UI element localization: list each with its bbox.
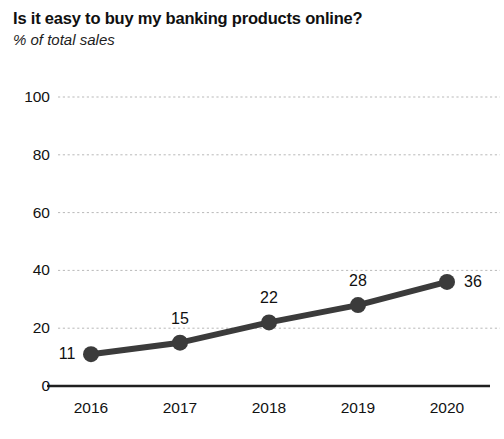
plot-area: 020406080100 20162017201820192020 111522… xyxy=(0,0,504,439)
data-point-label: 22 xyxy=(249,290,289,306)
chart-svg xyxy=(0,0,504,439)
data-point-label: 11 xyxy=(47,346,87,362)
y-tick-label: 0 xyxy=(6,378,50,394)
y-tick-label: 80 xyxy=(6,147,50,163)
data-point-marker xyxy=(261,314,277,330)
y-tick-label: 60 xyxy=(6,205,50,221)
x-tick-label: 2019 xyxy=(318,400,398,416)
data-point-marker xyxy=(172,335,188,351)
data-point-marker xyxy=(350,297,366,313)
data-point-label: 15 xyxy=(160,311,200,327)
x-tick-label: 2016 xyxy=(51,400,131,416)
chart-page: Is it easy to buy my banking products on… xyxy=(0,0,504,439)
x-tick-label: 2018 xyxy=(229,400,309,416)
x-tick-label: 2020 xyxy=(407,400,487,416)
data-point-label: 36 xyxy=(453,274,493,290)
y-tick-label: 40 xyxy=(6,262,50,278)
x-tick-label: 2017 xyxy=(140,400,220,416)
data-point-label: 28 xyxy=(338,273,378,289)
y-tick-label: 100 xyxy=(6,89,50,105)
y-tick-label: 20 xyxy=(6,320,50,336)
